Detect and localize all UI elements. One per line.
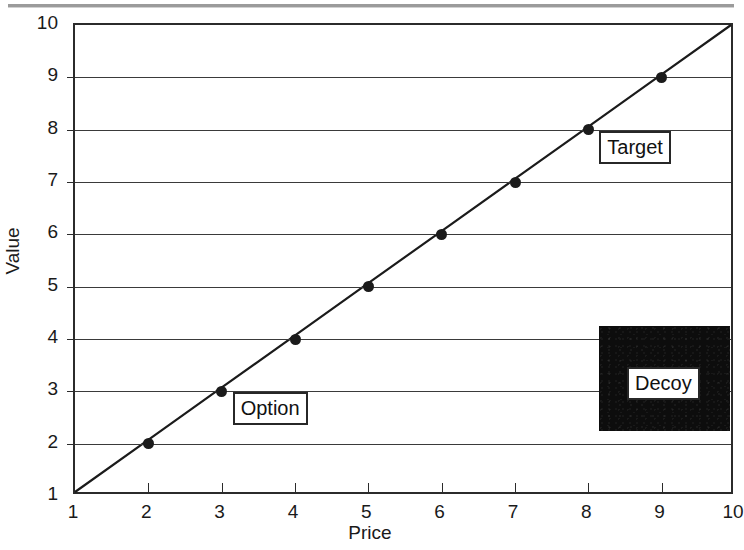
y-tick-9 [67,77,75,78]
callout-target[interactable]: Target [599,131,671,164]
x-axis-title: Price [0,522,740,544]
y-tick-5 [67,287,75,288]
gridline-y-6 [75,234,731,235]
data-point-7-7[interactable] [510,177,521,188]
y-tick-label-7: 7 [20,169,58,191]
data-point-2-2[interactable] [143,438,154,449]
gridline-y-2 [75,444,731,445]
x-tick-label-2: 2 [141,501,152,523]
y-tick-label-10: 10 [20,12,58,34]
x-tick-label-7: 7 [508,501,519,523]
gridline-y-9 [75,77,731,78]
y-tick-6 [67,234,75,235]
data-point-3-3[interactable] [216,386,227,397]
x-tick-2 [148,483,149,492]
x-tick-3 [222,483,223,492]
x-tick-7 [515,483,516,492]
x-tick-label-4: 4 [288,501,299,523]
y-tick-label-2: 2 [20,431,58,453]
callout-option[interactable]: Option [233,392,308,425]
callout-decoy[interactable]: Decoy [627,367,700,400]
y-tick-2 [67,444,75,445]
x-tick-label-9: 9 [654,501,665,523]
y-tick-label-4: 4 [20,326,58,348]
y-tick-label-9: 9 [20,64,58,86]
y-tick-3 [67,391,75,392]
x-tick-label-8: 8 [581,501,592,523]
data-point-6-6[interactable] [436,229,447,240]
x-tick-label-5: 5 [361,501,372,523]
y-tick-label-6: 6 [20,221,58,243]
y-tick-label-8: 8 [20,117,58,139]
x-tick-5 [368,483,369,492]
y-tick-label-3: 3 [20,378,58,400]
y-tick-7 [67,182,75,183]
page-top-rule [8,4,734,7]
data-point-4-4[interactable] [290,334,301,345]
gridline-y-7 [75,182,731,183]
x-tick-label-3: 3 [214,501,225,523]
x-tick-6 [442,483,443,492]
plot-area: OptionTargetDecoy [73,23,733,494]
x-tick-9 [662,483,663,492]
data-point-8-8[interactable] [583,124,594,135]
x-tick-label-1: 1 [68,501,79,523]
data-point-5-5[interactable] [363,281,374,292]
y-tick-label-1: 1 [20,483,58,505]
y-tick-8 [67,130,75,131]
x-tick-4 [295,483,296,492]
y-tick-label-5: 5 [20,274,58,296]
y-tick-4 [67,339,75,340]
x-tick-label-6: 6 [434,501,445,523]
gridline-y-5 [75,287,731,288]
data-point-9-9[interactable] [656,72,667,83]
x-tick-label-10: 10 [722,501,743,523]
x-tick-8 [588,483,589,492]
